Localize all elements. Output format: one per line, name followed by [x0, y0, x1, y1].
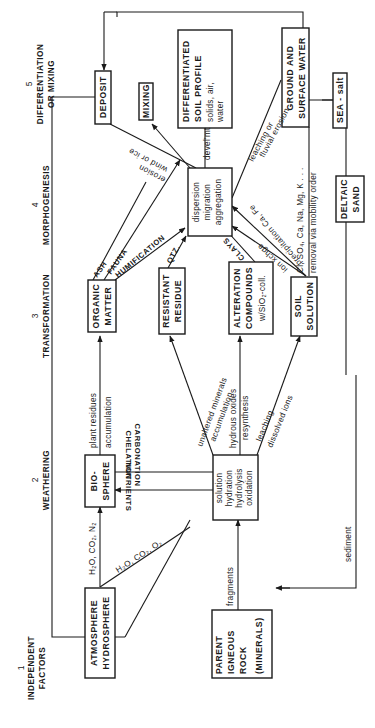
svg-text:RESIDUE: RESIDUE — [173, 280, 183, 322]
svg-text:SOIL: SOIL — [293, 295, 303, 317]
svg-text:SPHERE: SPHERE — [101, 462, 111, 501]
svg-text:DIFFERENTIATION: DIFFERENTIATION — [36, 44, 45, 125]
svg-text:DEPOSIT: DEPOSIT — [98, 76, 108, 118]
svg-text:aggregation: aggregation — [214, 179, 223, 226]
svg-text:solids, air,: solids, air, — [206, 82, 215, 122]
svg-text:dispersion: dispersion — [192, 182, 201, 222]
box-soil-solution: SOIL SOLUTION — [291, 277, 317, 336]
svg-text:hydrolysis: hydrolysis — [235, 468, 244, 507]
svg-text:MORPHOGENESIS: MORPHOGENESIS — [42, 165, 51, 245]
svg-text:RESISTANT: RESISTANT — [161, 274, 171, 328]
box-organic-matter: ORGANIC MATTER — [88, 280, 116, 332]
svg-text:oxidation: oxidation — [245, 470, 254, 506]
svg-text:INDEPENDENT: INDEPENDENT — [27, 636, 36, 700]
svg-text:3: 3 — [30, 313, 40, 318]
column-header-3: 3 TRANSFORMATION — [30, 274, 51, 358]
svg-text:ROCK: ROCK — [238, 646, 248, 674]
svg-text:ALTERATION: ALTERATION — [232, 268, 242, 328]
svg-text:CHELATION: CHELATION — [124, 430, 133, 479]
svg-text:sediment: sediment — [344, 526, 353, 562]
svg-text:H₂O, CO₂, N₂: H₂O, CO₂, N₂ — [88, 522, 97, 575]
svg-text:removal via mobility order: removal via mobility order — [309, 172, 318, 273]
svg-text:BIO-: BIO- — [89, 471, 99, 492]
svg-text:SOLUTION: SOLUTION — [305, 281, 315, 330]
svg-text:SOIL PROFILE: SOIL PROFILE — [193, 55, 203, 122]
svg-text:Cl, SO₄, Ca, Na, Mg, K . . .: Cl, SO₄, Ca, Na, Mg, K . . . — [296, 168, 305, 273]
svg-text:COMPOUNDS: COMPOUNDS — [244, 267, 254, 329]
svg-text:hydrous oxides: hydrous oxides — [229, 389, 238, 448]
box-morphogenesis-processes: dispersion migration aggregation — [188, 168, 232, 236]
svg-text:HYDROSPHERE: HYDROSPHERE — [101, 597, 111, 670]
svg-text:ORGANIC: ORGANIC — [91, 284, 101, 329]
column-header-1: 1 INDEPENDENT FACTORS — [16, 636, 47, 700]
svg-text:SAND: SAND — [351, 186, 361, 213]
svg-text:TRANSFORMATION: TRANSFORMATION — [42, 274, 51, 358]
svg-text:QTZ.: QTZ. — [165, 243, 182, 265]
column-header-4: 4 MORPHOGENESIS — [30, 165, 51, 245]
svg-text:w/SiO₂-coll.: w/SiO₂-coll. — [258, 275, 267, 322]
box-alteration-compounds: ALTERATION COMPOUNDS w/SiO₂-coll. — [229, 262, 273, 334]
svg-text:DIFFERENTIATED: DIFFERENTIATED — [181, 40, 191, 122]
svg-text:fragments: fragments — [226, 567, 235, 606]
svg-text:solution: solution — [215, 473, 224, 504]
svg-text:SEA - salt: SEA - salt — [335, 77, 345, 123]
svg-text:hydration: hydration — [225, 470, 234, 507]
svg-text:CARBONATION: CARBONATION — [133, 424, 142, 487]
svg-text:devel'mt: devel'mt — [203, 127, 212, 160]
box-deposit: DEPOSIT — [95, 71, 111, 124]
box-deltaic-sand: DELTAIC SAND — [336, 176, 364, 222]
box-weathering-processes: solution hydration hydrolysis oxidation — [213, 455, 258, 520]
svg-text:SURFACE WATER: SURFACE WATER — [297, 37, 307, 119]
column-header-2: 2 WEATHERING — [30, 450, 51, 510]
box-sea-salt: SEA - salt — [333, 73, 347, 128]
svg-text:MATTER: MATTER — [103, 286, 113, 325]
svg-text:CLAYS: CLAYS — [221, 236, 246, 263]
svg-text:DELTAIC: DELTAIC — [339, 179, 349, 219]
box-biosphere: BIO- SPHERE — [85, 455, 115, 507]
box-parent-igneous-rock: PARENT IGNEOUS ROCK (MINERALS) — [212, 610, 272, 678]
svg-text:accumulation: accumulation — [104, 396, 113, 448]
svg-text:4: 4 — [30, 202, 40, 207]
svg-text:H₂O, CO₂, O₂: H₂O, CO₂, O₂ — [114, 538, 163, 575]
svg-text:IGNEOUS: IGNEOUS — [226, 630, 236, 674]
svg-text:PARENT: PARENT — [214, 636, 224, 674]
svg-text:FACTORS: FACTORS — [38, 647, 47, 690]
svg-text:ATMOSPHERE: ATMOSPHERE — [89, 600, 99, 666]
box-mixing: MIXING — [139, 83, 153, 120]
column-header-5: 5 DIFFERENTIATION OR MIXING — [24, 44, 56, 125]
svg-text:5: 5 — [24, 81, 34, 86]
svg-text:WEATHERING: WEATHERING — [42, 450, 51, 510]
svg-text:resynthesis: resynthesis — [241, 395, 250, 440]
svg-text:MIXING: MIXING — [141, 84, 151, 118]
svg-text:water: water — [216, 100, 225, 123]
box-atmosphere-hydrosphere: ATMOSPHERE HYDROSPHERE — [85, 588, 115, 678]
svg-text:2: 2 — [30, 477, 40, 482]
svg-text:migration: migration — [203, 184, 212, 221]
svg-text:(MINERALS): (MINERALS) — [254, 617, 264, 674]
soil-formation-diagram: 1 INDEPENDENT FACTORS 2 WEATHERING 3 TRA… — [0, 0, 375, 728]
box-resistant-residue: RESISTANT RESIDUE — [159, 268, 185, 334]
svg-text:plant residues: plant residues — [89, 393, 98, 448]
svg-text:1: 1 — [16, 665, 26, 670]
svg-text:GROUND AND: GROUND AND — [285, 46, 295, 111]
box-differentiated-soil-profile: DIFFERENTIATED SOIL PROFILE solids, air,… — [178, 30, 232, 128]
